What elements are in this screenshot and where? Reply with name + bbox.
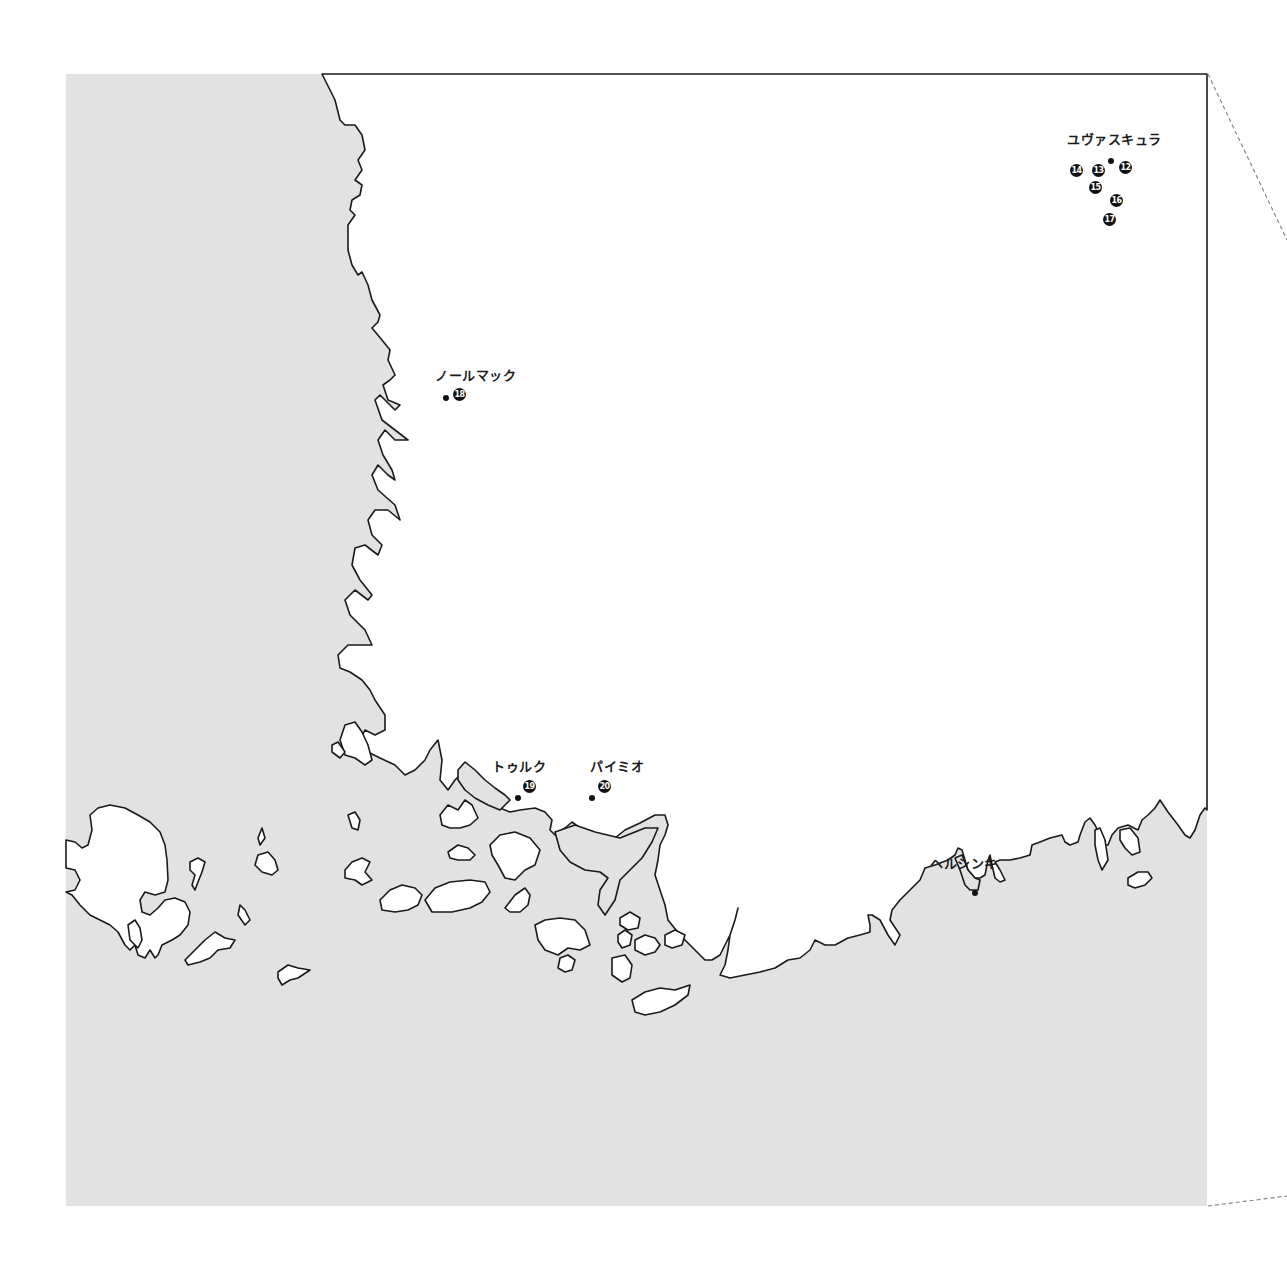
- marker-badge-12: 12: [1119, 161, 1132, 174]
- place-label-paimio: パイミオ: [590, 756, 644, 775]
- city-dot-paimio: [589, 795, 595, 801]
- city-dot-noormarkku: [443, 395, 449, 401]
- city-dot-jyvaskyla: [1108, 158, 1114, 164]
- place-label-helsinki: ヘルシンキ: [930, 853, 998, 872]
- marker-badge-15: 15: [1089, 181, 1102, 194]
- place-label-noormarkku: ノールマック: [435, 365, 516, 384]
- marker-badge-17: 17: [1103, 213, 1116, 226]
- marker-badge-20: 20: [598, 780, 611, 793]
- place-label-turku: トゥルク: [492, 756, 546, 775]
- marker-badge-14: 14: [1070, 164, 1083, 177]
- marker-badge-19: 19: [523, 780, 536, 793]
- marker-badge-18: 18: [453, 388, 466, 401]
- border-dashed-line-bottom: [1208, 1196, 1287, 1206]
- marker-badge-16: 16: [1110, 194, 1123, 207]
- place-label-jyvaskyla: ユヴァスキュラ: [1067, 129, 1162, 148]
- marker-badge-13: 13: [1092, 164, 1105, 177]
- border-dashed-line: [1208, 74, 1287, 240]
- city-dot-turku: [515, 795, 521, 801]
- city-dot-helsinki: [972, 890, 978, 896]
